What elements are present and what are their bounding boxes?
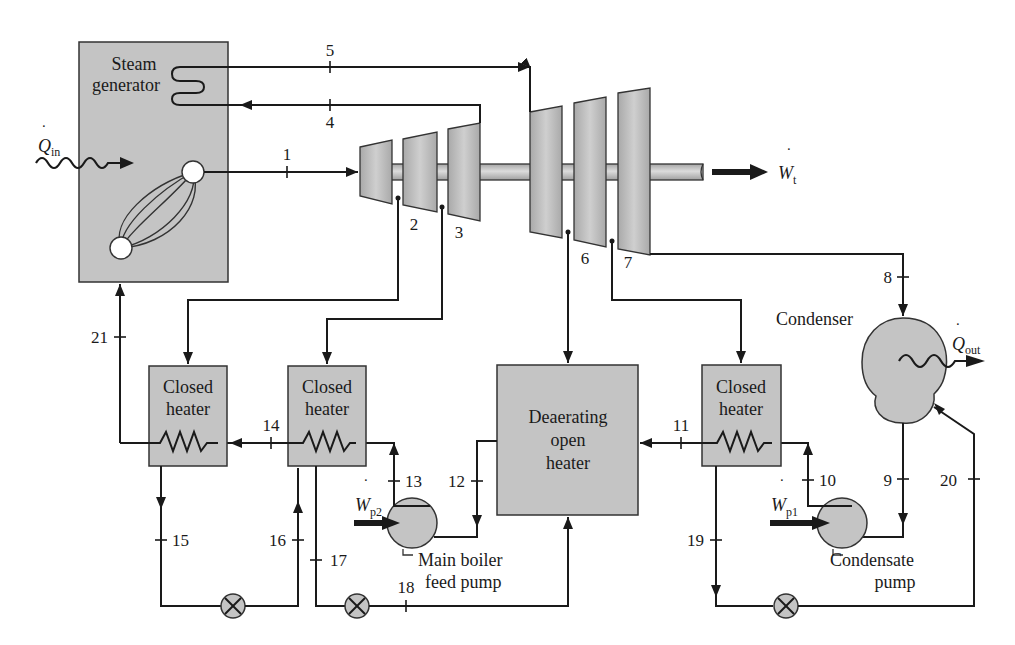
state-label-19: 19 (687, 531, 704, 550)
pipe-state-8 (650, 254, 903, 316)
state-label-21: 21 (91, 328, 108, 347)
state-label-5: 5 (326, 41, 335, 60)
q-in-dot: ˙ (41, 121, 47, 140)
state-label-14: 14 (263, 416, 281, 435)
svg-text:˙: ˙ (955, 319, 961, 338)
pipe-state-19 (716, 466, 773, 606)
feed-pump-label-line1: Main boiler (418, 550, 502, 570)
closed-heater-c: Closed heater (702, 365, 781, 466)
hp-stage-3 (448, 123, 480, 221)
pipe-state-4 (230, 105, 480, 123)
closed-heater-b-label-line1: Closed (302, 377, 352, 397)
condensate-pump-label-line1: Condensate (830, 550, 914, 570)
steam-generator-label-line2: generator (92, 75, 160, 95)
state-label-8: 8 (884, 268, 893, 287)
svg-text:˙: ˙ (786, 144, 792, 163)
deaerator-label-line1: Deaerating (529, 407, 608, 427)
w-p2-label: Wp2 (355, 495, 382, 519)
lp-stage-1 (530, 106, 562, 238)
state-label-13: 13 (405, 472, 422, 491)
condenser-shell (862, 318, 946, 423)
state-label-10: 10 (819, 471, 836, 490)
lp-stage-2 (574, 97, 606, 247)
throttle-valve-3 (774, 594, 798, 618)
hp-stage-1 (360, 140, 392, 204)
state-label-9: 9 (884, 471, 893, 490)
deaerating-open-heater: Deaerating open heater (497, 365, 638, 515)
pipe-state-15 (161, 466, 221, 606)
hp-stage-2 (403, 132, 437, 212)
condenser-label: Condenser (776, 309, 853, 329)
deaerator-label-line3: heater (546, 453, 590, 473)
closed-heater-a-label-line2: heater (166, 399, 210, 419)
closed-heater-b: Closed heater (288, 366, 366, 466)
state-label-4: 4 (326, 113, 335, 132)
state-label-12: 12 (448, 472, 465, 491)
feed-pump-label-line2: feed pump (425, 572, 501, 592)
svg-text:˙: ˙ (779, 475, 785, 494)
closed-heater-a-label-line1: Closed (163, 377, 213, 397)
condensate-pump-label-line2: pump (874, 572, 915, 592)
svg-text:˙: ˙ (363, 475, 369, 494)
closed-heater-c-label-line2: heater (719, 399, 763, 419)
turbine-work-output: Wt ˙ (712, 144, 797, 187)
closed-heater-b-label-line2: heater (305, 399, 349, 419)
deaerator-label-line2: open (551, 430, 586, 450)
state-label-7: 7 (624, 253, 633, 272)
w-p1-label: Wp1 (771, 495, 798, 519)
state-label-2: 2 (410, 215, 419, 234)
state-label-16: 16 (269, 531, 286, 550)
state-label-3: 3 (455, 223, 464, 242)
state-label-6: 6 (581, 249, 590, 268)
state-label-1: 1 (283, 145, 292, 164)
condensate-pump: Condensate pump (817, 498, 916, 592)
pipe-state-12 (434, 441, 497, 537)
w-t-label: Wt (778, 163, 797, 187)
state-label-11: 11 (673, 416, 689, 435)
pipe-state-17 (316, 466, 345, 606)
pipe-state-3 (327, 207, 442, 364)
throttle-valve-1 (221, 594, 245, 618)
state-label-20: 20 (940, 471, 957, 490)
state-label-18: 18 (398, 578, 415, 597)
state-label-15: 15 (172, 531, 189, 550)
closed-heater-a: Closed heater (120, 366, 227, 466)
power-cycle-diagram: Steam generator Qin ˙ (0, 0, 1015, 645)
lp-stage-3 (618, 88, 650, 255)
state-label-17: 17 (330, 551, 348, 570)
throttle-valve-2 (345, 594, 369, 618)
steam-generator-label-line1: Steam (112, 54, 157, 74)
closed-heater-c-label-line1: Closed (716, 377, 766, 397)
